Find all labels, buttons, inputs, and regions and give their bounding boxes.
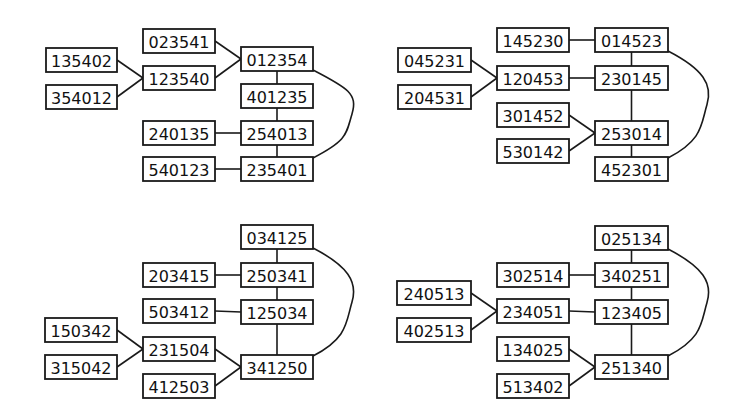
node-025134: 025134: [595, 226, 668, 250]
node-301452: 301452: [497, 103, 569, 127]
node-label: 230145: [601, 70, 662, 89]
node-302514: 302514: [497, 263, 569, 287]
node-label: 301452: [502, 107, 563, 126]
node-234051: 234051: [497, 299, 569, 323]
node-134025: 134025: [497, 337, 569, 361]
node-label: 014523: [601, 32, 662, 51]
node-label: 513402: [502, 378, 563, 397]
node-label: 401235: [246, 88, 307, 107]
node-label: 120453: [502, 70, 563, 89]
node-label: 340251: [601, 267, 662, 286]
node-452301: 452301: [595, 157, 668, 181]
edge-204531-120453: [471, 78, 497, 97]
edge-023541-012354: [215, 41, 241, 59]
node-label: 302514: [502, 267, 563, 286]
node-label: 354012: [51, 89, 112, 108]
node-label: 240513: [403, 285, 464, 304]
node-123540: 123540: [143, 66, 215, 90]
node-045231: 045231: [398, 48, 471, 72]
node-label: 023541: [148, 33, 209, 52]
diagram-bottom-right: 0251343025143402512405132340511234054025…: [397, 226, 668, 398]
node-034125: 034125: [241, 225, 313, 249]
node-412503: 412503: [143, 374, 215, 398]
node-014523: 014523: [595, 28, 668, 52]
node-label: 235401: [246, 161, 307, 180]
node-125034: 125034: [241, 300, 313, 324]
node-label: 412503: [148, 378, 209, 397]
edge-240513-234051: [471, 293, 497, 311]
node-315042: 315042: [45, 355, 117, 379]
node-label: 204531: [404, 89, 465, 108]
edge-354012-123540: [117, 78, 143, 97]
node-235401: 235401: [241, 157, 313, 181]
edge-123540-012354: [215, 59, 241, 78]
edge-301452-253014: [569, 115, 595, 133]
node-503412: 503412: [143, 299, 215, 323]
node-label: 341250: [246, 359, 307, 378]
node-250341: 250341: [241, 263, 313, 287]
node-label: 125034: [246, 304, 307, 323]
node-135402: 135402: [46, 48, 117, 72]
edge-513402-251340: [569, 367, 595, 386]
node-402513: 402513: [397, 318, 471, 342]
edge-014523-452301: [668, 51, 709, 158]
node-label: 254013: [246, 125, 307, 144]
node-label: 315042: [50, 359, 111, 378]
node-251340: 251340: [595, 355, 668, 379]
node-label: 123405: [601, 304, 662, 323]
edge-025134-251340: [668, 249, 709, 356]
edge-231504-341250: [215, 349, 241, 367]
edge-530142-253014: [569, 133, 595, 151]
edge-012354-235401: [313, 70, 354, 158]
edge-034125-341250: [313, 248, 354, 356]
node-401235: 401235: [241, 84, 313, 108]
node-354012: 354012: [46, 85, 117, 109]
node-012354: 012354: [241, 47, 313, 71]
node-240513: 240513: [397, 281, 471, 305]
node-540123: 540123: [143, 157, 215, 181]
node-340251: 340251: [595, 263, 668, 287]
diagram-bottom-left: 0341252034152503415034121250341503422315…: [45, 225, 313, 398]
node-230145: 230145: [595, 66, 668, 90]
node-label: 250341: [246, 267, 307, 286]
edge-134025-251340: [569, 349, 595, 367]
node-label: 045231: [404, 52, 465, 71]
edge-503412-125034: [215, 311, 241, 312]
permutation-graph-canvas: 0235410123541354021235403540124012352401…: [0, 0, 739, 419]
edge-135402-123540: [117, 60, 143, 78]
diagram-top-left-edges: [117, 41, 354, 169]
edge-315042-231504: [117, 349, 143, 367]
node-513402: 513402: [497, 374, 569, 398]
node-label: 240135: [148, 125, 209, 144]
node-023541: 023541: [143, 29, 215, 53]
node-label: 135402: [51, 52, 112, 71]
node-label: 134025: [502, 341, 563, 360]
edge-150342-231504: [117, 330, 143, 349]
node-label: 150342: [50, 322, 111, 341]
node-123405: 123405: [595, 300, 668, 324]
node-label: 530142: [502, 143, 563, 162]
node-label: 251340: [601, 359, 662, 378]
node-145230: 145230: [497, 28, 569, 52]
node-253014: 253014: [595, 121, 668, 145]
node-label: 234051: [502, 303, 563, 322]
node-530142: 530142: [497, 139, 569, 163]
node-203415: 203415: [143, 263, 215, 287]
nodes-layer: 0235410123541354021235403540124012352401…: [45, 28, 668, 398]
node-label: 034125: [246, 229, 307, 248]
node-label: 012354: [246, 51, 307, 70]
node-341250: 341250: [241, 355, 313, 379]
node-label: 503412: [148, 303, 209, 322]
diagram-top-right: 1452300145230452311204532301452045313014…: [398, 28, 668, 181]
edge-402513-234051: [471, 311, 497, 330]
node-label: 203415: [148, 267, 209, 286]
node-254013: 254013: [241, 121, 313, 145]
node-label: 402513: [403, 322, 464, 341]
node-240135: 240135: [143, 121, 215, 145]
node-label: 123540: [148, 70, 209, 89]
edge-234051-123405: [569, 311, 595, 312]
node-label: 540123: [148, 161, 209, 180]
edge-045231-120453: [471, 60, 497, 78]
node-label: 145230: [502, 32, 563, 51]
diagram-top-left: 0235410123541354021235403540124012352401…: [46, 29, 313, 181]
